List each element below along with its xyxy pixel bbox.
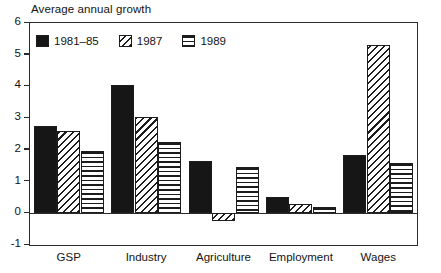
bar-group: [189, 23, 259, 245]
bar: [212, 213, 235, 221]
bar: [189, 161, 212, 213]
bar: [81, 151, 104, 213]
bar: [367, 45, 390, 213]
bar: [390, 163, 413, 214]
y-axis-tick-label: 4: [15, 77, 21, 92]
y-axis-tick-label: 1: [15, 173, 21, 188]
bar: [313, 207, 336, 213]
bar-group: [343, 23, 413, 245]
legend-swatch: [119, 35, 132, 47]
chart-title: Average annual growth: [31, 2, 151, 16]
x-axis-label: Wages: [361, 250, 396, 265]
bar: [343, 155, 366, 214]
y-axis-tick-label: 3: [15, 109, 21, 124]
bar-group: [34, 23, 104, 245]
x-axis-label: Employment: [269, 250, 333, 265]
chart-legend: 1981–8519871989: [36, 33, 226, 49]
y-axis-tick-label: 6: [15, 14, 21, 29]
bar-group: [111, 23, 181, 245]
bar-group: [266, 23, 336, 245]
y-axis-tick-label: 0: [15, 204, 21, 219]
legend-item: 1987: [119, 33, 163, 49]
y-axis-tick-label: -1: [11, 236, 21, 251]
bar: [289, 204, 312, 214]
legend-swatch: [182, 35, 195, 47]
x-axis-label: GSP: [57, 250, 81, 265]
y-axis: 6543210-1: [0, 22, 29, 246]
bar: [57, 131, 80, 213]
legend-label: 1989: [200, 34, 226, 48]
bar: [236, 167, 259, 213]
bar-chart: Average annual growth 6543210-1 1981–851…: [0, 0, 441, 273]
bar: [34, 126, 57, 213]
legend-swatch: [36, 35, 49, 47]
x-axis-label: Agriculture: [196, 250, 251, 265]
legend-item: 1981–85: [36, 33, 99, 49]
x-axis-label: Industry: [126, 250, 167, 265]
plot-area: [30, 23, 417, 245]
bar: [158, 142, 181, 213]
legend-label: 1987: [137, 34, 163, 48]
bar: [111, 85, 134, 213]
y-axis-tick-label: 5: [15, 46, 21, 61]
y-axis-tick-label: 2: [15, 141, 21, 156]
legend-item: 1989: [182, 33, 226, 49]
bar: [135, 117, 158, 214]
legend-label: 1981–85: [54, 34, 99, 48]
bar: [266, 197, 289, 213]
x-axis-labels: GSPIndustryAgricultureEmploymentWages: [30, 250, 417, 270]
